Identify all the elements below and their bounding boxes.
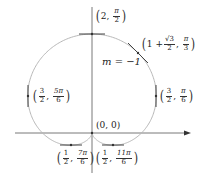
point-pi-over-3: [137, 52, 139, 54]
point-origin: [91, 132, 93, 134]
label-lower-left-r: 12: [63, 150, 69, 166]
label-lower-left: ( 12, 7π6 ): [56, 150, 95, 166]
label-right-theta: π6: [180, 88, 187, 104]
label-lower-right-theta: 11π6: [116, 150, 132, 166]
label-pi-over-3: ( 1 + √32, π3 ): [141, 36, 196, 52]
label-right-r: 32: [166, 88, 172, 104]
point-lower-left: [70, 144, 72, 146]
point-right: [155, 95, 157, 97]
point-lower-right: [112, 144, 114, 146]
point-top: [91, 33, 93, 35]
label-lower-right-r: 12: [102, 150, 108, 166]
label-left: ( 32, 5π6 ): [32, 88, 71, 104]
point-left: [27, 95, 29, 97]
label-left-theta: 5π6: [53, 88, 64, 104]
label-pi-over-3-r-frac: √32: [164, 36, 175, 52]
axis-arrow-icon: [184, 131, 191, 136]
slope-label: m = −1: [102, 57, 141, 67]
label-top: ( 2, π2 ): [95, 8, 127, 24]
origin-label: (0, 0): [96, 121, 120, 130]
label-lower-right: ( 12, 11π6 ): [95, 150, 138, 166]
label-pi-over-3-r-int: 1 +: [147, 40, 163, 49]
label-pi-over-3-theta: π3: [183, 36, 190, 52]
label-lower-left-theta: 7π6: [77, 150, 88, 166]
label-left-r: 32: [39, 88, 45, 104]
label-right: ( 32, π6 ): [159, 88, 194, 104]
label-top-theta: π2: [113, 8, 120, 24]
